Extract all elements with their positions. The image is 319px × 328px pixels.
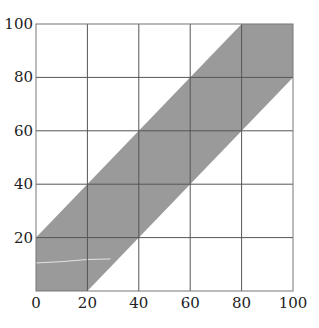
x-tick-label: 60: [181, 294, 200, 312]
chart: 020406080100 20406080100: [0, 0, 319, 328]
y-tick-label: 80: [14, 68, 33, 86]
x-axis-tick-labels: 020406080100: [31, 294, 307, 312]
x-tick-label: 80: [232, 294, 251, 312]
x-tick-label: 20: [78, 294, 97, 312]
x-tick-label: 40: [129, 294, 148, 312]
y-tick-label: 20: [14, 229, 33, 247]
y-axis-tick-labels: 20406080100: [4, 15, 33, 247]
y-tick-label: 40: [14, 175, 33, 193]
x-tick-label: 0: [31, 294, 41, 312]
x-tick-label: 100: [279, 294, 308, 312]
y-tick-label: 60: [14, 122, 33, 140]
y-tick-label: 100: [4, 15, 33, 33]
plot-area: [36, 24, 293, 291]
shaded-band: [36, 24, 293, 291]
